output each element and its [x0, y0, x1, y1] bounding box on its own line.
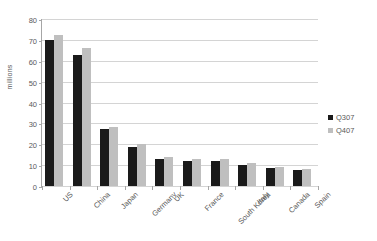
y-axis-tick-label: 80: [29, 16, 37, 25]
bar-group: [235, 19, 263, 186]
bar-q307-us: [45, 40, 54, 186]
x-axis-label-spain: Spain: [312, 190, 332, 210]
bar-group: [70, 19, 98, 186]
bar-q407-italy: [247, 163, 256, 186]
bar-q307-china: [73, 55, 82, 187]
legend-swatch-icon: [328, 115, 333, 120]
bar-group: [42, 19, 70, 186]
bar-group: [263, 19, 291, 186]
bar-q407-france: [192, 159, 201, 186]
bar-q307-germany: [128, 147, 137, 186]
bar-group: [180, 19, 208, 186]
bars-layer: [42, 19, 318, 186]
bar-q307-canada: [266, 168, 275, 186]
bar-q307-japan: [100, 129, 109, 186]
x-axis-label-china: China: [91, 190, 111, 210]
bar-q407-us: [54, 35, 63, 186]
bar-q307-spain: [293, 170, 302, 186]
bar-q407-uk: [164, 157, 173, 186]
legend-item-q407[interactable]: Q407: [328, 124, 354, 137]
y-axis-tick-label: 30: [29, 120, 37, 129]
legend-label: Q307: [336, 113, 354, 122]
y-axis-tick-label: 70: [29, 36, 37, 45]
bar-group: [290, 19, 318, 186]
y-axis-tick-label: 0: [33, 183, 37, 192]
y-axis-tick-label: 60: [29, 57, 37, 66]
bar-q407-japan: [109, 127, 118, 186]
y-axis-tick-label: 50: [29, 78, 37, 87]
bar-q407-canada: [275, 167, 284, 186]
y-axis-tick-label: 10: [29, 162, 37, 171]
legend-label: Q407: [336, 126, 354, 135]
bar-q407-spain: [302, 169, 311, 186]
bar-group: [152, 19, 180, 186]
y-axis-tick-label: 20: [29, 141, 37, 150]
bar-q307-south-korea: [211, 161, 220, 186]
x-axis-label-canada: Canada: [287, 190, 312, 215]
x-axis-label-france: France: [203, 190, 226, 213]
bar-q307-italy: [238, 165, 247, 187]
legend-swatch-icon: [328, 128, 333, 133]
y-axis-tick-label: 40: [29, 99, 37, 108]
legend-item-q307[interactable]: Q307: [328, 111, 354, 124]
bar-q307-uk: [155, 159, 164, 186]
bar-chart: millions 80706050403020100 USChinaJapanG…: [0, 0, 377, 241]
x-axis-label-japan: Japan: [119, 190, 140, 211]
x-axis-labels: USChinaJapanGermanyUKFranceSouth KoreaIt…: [41, 190, 317, 241]
bar-group: [125, 19, 153, 186]
bar-q407-south-korea: [220, 159, 229, 186]
x-axis-label-us: US: [61, 190, 75, 204]
bar-group: [97, 19, 125, 186]
plot-area: 80706050403020100: [41, 19, 318, 187]
bar-q407-china: [82, 48, 91, 186]
bar-q307-france: [183, 161, 192, 186]
y-axis-title: millions: [6, 50, 13, 104]
x-axis-tick-mark: [318, 186, 319, 190]
chart-legend: Q307Q407: [328, 111, 354, 137]
bar-q407-germany: [137, 144, 146, 186]
bar-group: [208, 19, 236, 186]
